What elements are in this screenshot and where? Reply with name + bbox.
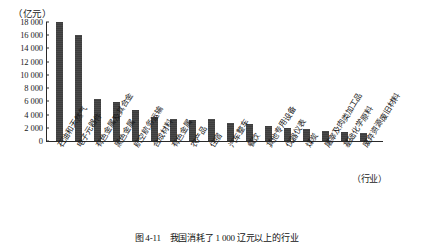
y-axis-tick-label: 2 000	[24, 123, 46, 133]
bar	[113, 102, 120, 141]
x-axis-line	[46, 141, 383, 142]
bar	[132, 110, 139, 141]
bar	[151, 117, 158, 141]
y-axis-tick-label: 0	[39, 136, 46, 146]
x-axis-title: （行业）	[352, 172, 387, 185]
bar	[94, 99, 101, 141]
bar	[265, 126, 272, 141]
bar	[341, 132, 348, 141]
bar	[303, 129, 310, 141]
bar	[75, 35, 82, 141]
y-axis-tick-label: 4 000	[24, 110, 46, 120]
bar	[170, 119, 177, 141]
figure-caption: 图 4-11 我国消耗了 1 000 辽元以上的行业	[0, 231, 433, 244]
y-axis-tick-label: 12 000	[20, 57, 46, 67]
bar	[227, 123, 234, 141]
bar	[246, 124, 253, 141]
bar	[322, 131, 329, 141]
y-axis-tick-label: 14 000	[20, 43, 46, 53]
y-axis-tick-label: 16 000	[20, 30, 46, 40]
bar	[208, 119, 215, 141]
bar	[56, 22, 63, 141]
y-axis-tick-label: 10 000	[20, 70, 46, 80]
bar	[189, 120, 196, 141]
y-axis-tick-label: 18 000	[20, 17, 46, 27]
bar	[360, 133, 367, 141]
bar	[284, 128, 291, 141]
bar-series	[47, 22, 382, 141]
y-axis-tick-label: 8 000	[24, 83, 46, 93]
y-axis-tick-label: 6 000	[24, 96, 46, 106]
